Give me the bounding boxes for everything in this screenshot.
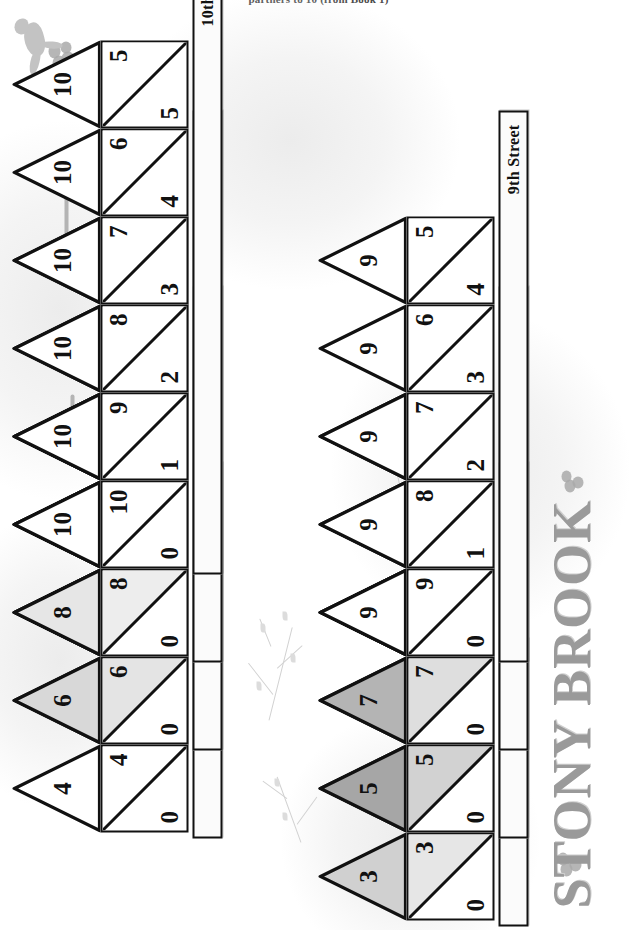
house-body: 28 [100, 304, 188, 392]
roof-number: 6 [12, 656, 100, 744]
house-roof: 4 [12, 744, 100, 832]
house-8th-0[interactable]: 808 [12, 568, 188, 656]
house-body: 27 [406, 392, 494, 480]
house-body: 03 [406, 832, 494, 920]
house-body: 07 [406, 656, 494, 744]
page-title: STONY BROOK [540, 499, 602, 908]
house-10th-2[interactable]: 1028 [12, 304, 188, 392]
house-body: 010 [100, 480, 188, 568]
house-10th-3[interactable]: 1037 [12, 216, 188, 304]
addend-right: 9 [408, 570, 492, 654]
house-body: 46 [100, 128, 188, 216]
roof-number: 10 [12, 304, 100, 392]
roof-number: 10 [12, 216, 100, 304]
house-body: 09 [406, 568, 494, 656]
house-roof: 10 [12, 128, 100, 216]
addend-right: 3 [408, 834, 492, 918]
addend-right: 5 [102, 42, 186, 126]
house-roof: 9 [318, 480, 406, 568]
house-9th-2[interactable]: 927 [318, 392, 494, 480]
worksheet-page: partners to 10 (from Book 1) [0, 0, 637, 930]
house-10th-5[interactable]: 1055 [12, 40, 188, 128]
house-9th-4[interactable]: 945 [318, 216, 494, 304]
addend-right: 7 [408, 658, 492, 742]
house-5th-0[interactable]: 505 [318, 744, 494, 832]
addend-right: 4 [102, 746, 186, 830]
house-roof: 5 [318, 744, 406, 832]
house-10th-4[interactable]: 1046 [12, 128, 188, 216]
house-body: 19 [100, 392, 188, 480]
roof-number: 5 [318, 744, 406, 832]
addend-right: 5 [408, 746, 492, 830]
roof-number: 3 [318, 832, 406, 920]
worksheet-canvas: 3033124044134225055145236066156246337077… [0, 0, 637, 930]
roof-number: 10 [12, 392, 100, 480]
roof-number: 7 [318, 656, 406, 744]
house-roof: 10 [12, 40, 100, 128]
roof-number: 9 [318, 304, 406, 392]
house-9th-0[interactable]: 909 [318, 568, 494, 656]
addend-right: 8 [408, 482, 492, 566]
house-body: 04 [100, 744, 188, 832]
house-body: 05 [406, 744, 494, 832]
house-roof: 7 [318, 656, 406, 744]
addend-right: 6 [102, 658, 186, 742]
house-9th-1[interactable]: 918 [318, 480, 494, 568]
addend-right: 7 [408, 394, 492, 478]
roof-number: 9 [318, 392, 406, 480]
house-roof: 8 [12, 568, 100, 656]
addend-right: 9 [102, 394, 186, 478]
house-3rd-0[interactable]: 303 [318, 832, 494, 920]
addend-right: 8 [102, 570, 186, 654]
roof-number: 8 [12, 568, 100, 656]
house-7th-0[interactable]: 707 [318, 656, 494, 744]
addend-right: 6 [408, 306, 492, 390]
street-label: 10th Street [198, 0, 216, 26]
house-roof: 10 [12, 480, 100, 568]
house-6th-0[interactable]: 606 [12, 656, 188, 744]
roof-number: 10 [12, 40, 100, 128]
street-label: 9th Street [504, 112, 522, 194]
house-roof: 6 [12, 656, 100, 744]
house-10th-1[interactable]: 1019 [12, 392, 188, 480]
house-9th-3[interactable]: 936 [318, 304, 494, 392]
roof-number: 9 [318, 568, 406, 656]
house-body: 55 [100, 40, 188, 128]
house-10th-0[interactable]: 10010 [12, 480, 188, 568]
house-roof: 9 [318, 304, 406, 392]
house-roof: 9 [318, 568, 406, 656]
house-roof: 10 [12, 304, 100, 392]
street-sign-10th: 10th Street [192, 0, 222, 574]
house-body: 18 [406, 480, 494, 568]
addend-right: 7 [102, 218, 186, 302]
roof-number: 10 [12, 480, 100, 568]
addend-right: 10 [102, 482, 186, 566]
addend-right: 5 [408, 218, 492, 302]
house-roof: 3 [318, 832, 406, 920]
roof-number: 9 [318, 216, 406, 304]
house-4th-0[interactable]: 404 [12, 744, 188, 832]
house-roof: 10 [12, 216, 100, 304]
addend-right: 6 [102, 130, 186, 214]
roof-number: 10 [12, 128, 100, 216]
house-roof: 9 [318, 216, 406, 304]
house-body: 37 [100, 216, 188, 304]
house-body: 45 [406, 216, 494, 304]
street-sign-9th: 9th Street [498, 110, 528, 662]
house-body: 06 [100, 656, 188, 744]
roof-number: 9 [318, 480, 406, 568]
roof-number: 4 [12, 744, 100, 832]
house-body: 36 [406, 304, 494, 392]
house-roof: 10 [12, 392, 100, 480]
house-body: 08 [100, 568, 188, 656]
house-roof: 9 [318, 392, 406, 480]
addend-right: 8 [102, 306, 186, 390]
